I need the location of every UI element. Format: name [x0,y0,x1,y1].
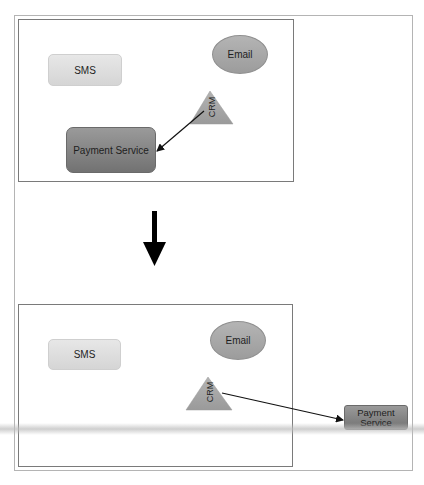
after-edge-crm-to-payment [222,393,343,420]
before-edge-crm-to-payment [157,111,204,151]
before-crm-label: CRM [206,95,218,119]
scan-artifact-band [0,423,424,435]
diagram-shapes [0,0,424,485]
arrow-down-icon [143,211,166,266]
after-crm-label: CRM [204,380,216,404]
